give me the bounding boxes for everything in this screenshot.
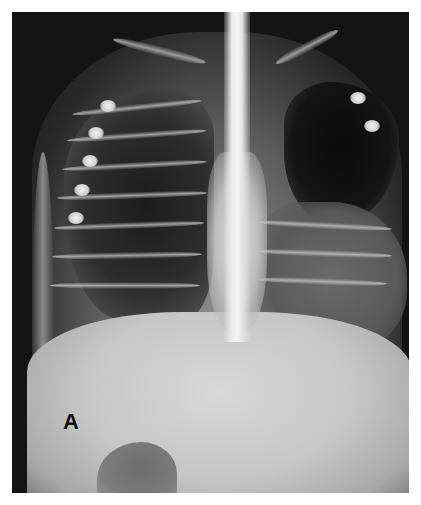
rib-head (88, 127, 104, 139)
figure-label: A (63, 409, 79, 435)
rib-head (100, 100, 116, 112)
rib-head (364, 120, 380, 132)
rib (50, 282, 200, 289)
rib-head (82, 155, 98, 167)
rib-head (350, 92, 366, 104)
trachea-spine (224, 12, 250, 342)
abdomen-soft-tissue (27, 312, 409, 493)
rib-head (74, 184, 90, 196)
rib-head (68, 212, 84, 224)
